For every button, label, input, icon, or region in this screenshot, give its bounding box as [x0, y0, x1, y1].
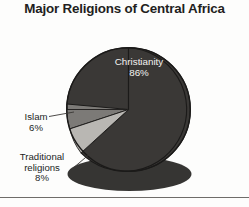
chart-figure: Major Religions of Central Africa Chri — [0, 0, 249, 207]
slice-label-traditional-name-line1: Traditional — [20, 151, 64, 162]
slice-label-christianity-name: Christianity — [115, 56, 163, 67]
slice-label-christianity: Christianity 86% — [96, 57, 182, 79]
bottom-divider — [0, 197, 249, 198]
slice-label-islam-name: Islam — [25, 111, 48, 122]
slice-label-christianity-value: 86% — [96, 68, 182, 79]
slice-label-traditional-name-line2: religions — [24, 162, 60, 173]
slice-label-traditional: Traditional religions 8% — [0, 152, 84, 184]
slice-label-traditional-value: 8% — [0, 173, 84, 184]
slice-label-islam: Islam 6% — [6, 112, 66, 133]
slice-label-islam-value: 6% — [6, 123, 66, 134]
pie-chart-area: Christianity 86% Islam 6% Traditional re… — [0, 0, 249, 207]
